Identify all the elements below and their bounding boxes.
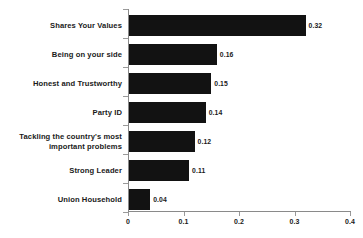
x-axis-tick-label: 0.4 xyxy=(345,218,355,225)
bar xyxy=(128,160,189,181)
bar-row: Honest and Trustworthy0.15 xyxy=(0,69,363,98)
y-axis-tick xyxy=(123,67,128,68)
bar-chart: Shares Your Values0.32Being on your side… xyxy=(0,0,363,238)
bar-value-label: 0.15 xyxy=(214,69,228,98)
bar xyxy=(128,102,206,123)
x-axis-tick xyxy=(184,212,185,216)
bar-row: Being on your side0.16 xyxy=(0,40,363,69)
x-axis-tick-label: 0.3 xyxy=(289,218,299,225)
bar-row: Tackling the country's most important pr… xyxy=(0,127,363,156)
x-axis-tick xyxy=(239,212,240,216)
x-axis-tick-label: 0.2 xyxy=(234,218,244,225)
category-label: Being on your side xyxy=(0,40,122,69)
y-axis-tick xyxy=(123,38,128,39)
bar xyxy=(128,189,150,210)
bar-row: Union Household0.04 xyxy=(0,185,363,214)
bar-row: Shares Your Values0.32 xyxy=(0,11,363,40)
bar xyxy=(128,73,211,94)
bar-value-label: 0.04 xyxy=(153,185,167,214)
x-axis-tick xyxy=(350,212,351,216)
bar-value-label: 0.11 xyxy=(192,156,205,185)
bar-value-label: 0.32 xyxy=(309,11,323,40)
category-label: Party ID xyxy=(0,98,122,127)
x-axis-tick xyxy=(295,212,296,216)
bar-value-label: 0.14 xyxy=(209,98,223,127)
x-axis-tick-label: 0.1 xyxy=(178,218,188,225)
y-axis-line xyxy=(128,9,129,211)
y-axis-tick xyxy=(123,125,128,126)
x-axis-tick xyxy=(128,212,129,216)
bar-row: Strong Leader0.11 xyxy=(0,156,363,185)
bar-value-label: 0.16 xyxy=(220,40,234,69)
x-axis-tick-label: 0 xyxy=(126,218,130,225)
y-axis-tick xyxy=(123,96,128,97)
y-axis-tick xyxy=(123,183,128,184)
category-label: Shares Your Values xyxy=(0,11,122,40)
category-label: Tackling the country's most important pr… xyxy=(0,127,122,156)
category-label: Honest and Trustworthy xyxy=(0,69,122,98)
y-axis-tick xyxy=(123,9,128,10)
bar xyxy=(128,131,195,152)
bar xyxy=(128,15,306,36)
y-axis-tick xyxy=(123,154,128,155)
bar-row: Party ID0.14 xyxy=(0,98,363,127)
category-label: Union Household xyxy=(0,185,122,214)
bar-value-label: 0.12 xyxy=(198,127,212,156)
category-label: Strong Leader xyxy=(0,156,122,185)
bar xyxy=(128,44,217,65)
